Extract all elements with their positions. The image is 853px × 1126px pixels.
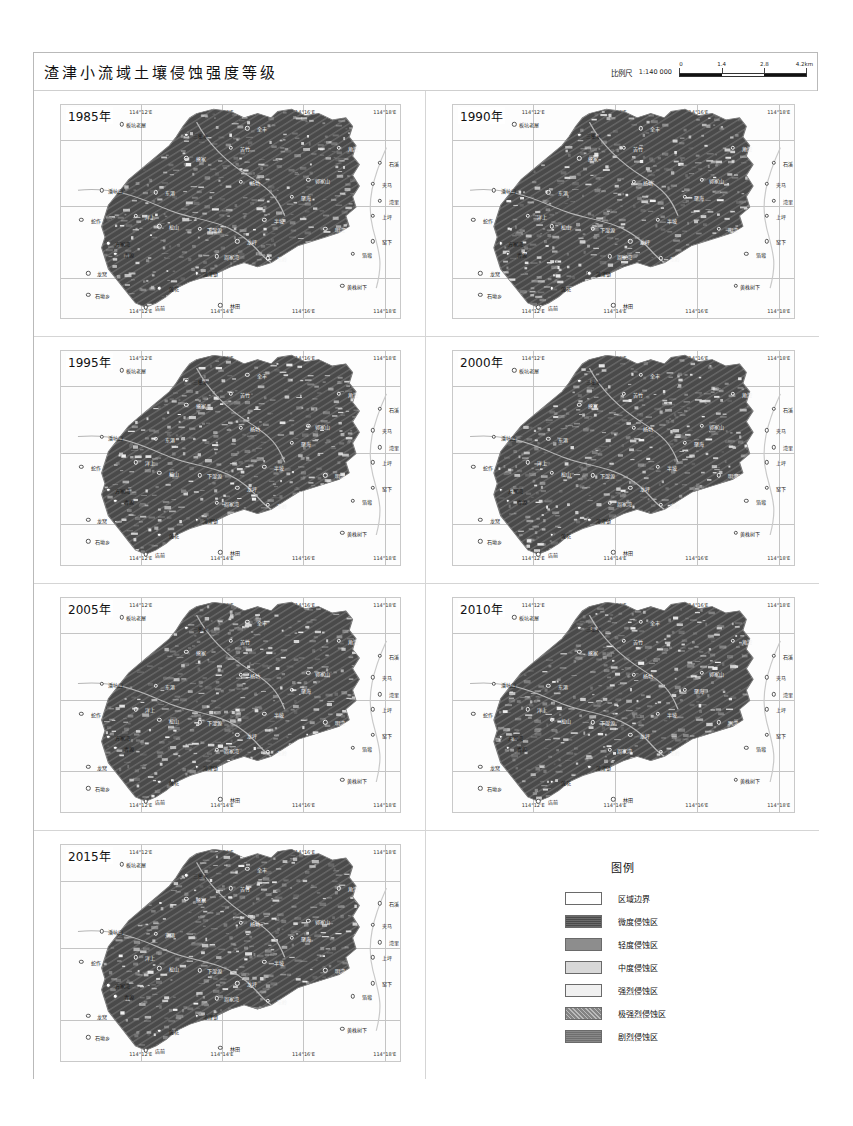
place-label: 石溪	[389, 652, 399, 659]
place-label: 板坑老屋	[519, 121, 539, 128]
legend-label: 轻度侵蚀区	[618, 939, 658, 950]
place-label: 方家湾	[508, 487, 523, 494]
place-label: 全丰	[257, 618, 267, 625]
place-label: 湾里	[783, 444, 793, 451]
map-plot[interactable]: 114°12'E114°12'E114°14'E114°14'E114°16'E…	[60, 597, 401, 813]
place-label: 角湾	[348, 390, 358, 397]
place-label: 林田	[230, 549, 240, 556]
legend-item[interactable]: 强烈侵蚀区	[565, 979, 666, 1002]
map-panel-2000[interactable]: 2000年 114°12'E114°12'E114°14'E114°14'E11…	[426, 337, 819, 584]
place-label: 龙坪	[247, 980, 257, 987]
scale-tick-3	[806, 68, 807, 73]
place-label: 湾里	[783, 691, 793, 698]
place-label: 蛇作	[483, 463, 493, 470]
place-label: 龙坪	[247, 484, 257, 491]
place-label: 夹马	[382, 921, 392, 928]
place-label: 熊家	[588, 155, 598, 162]
panel-year-label: 1990年	[458, 107, 505, 124]
scale-tick-label-3: 4.2km	[796, 61, 813, 67]
legend-item[interactable]: 微度侵蚀区	[565, 910, 666, 933]
place-label: 东岭	[277, 255, 287, 262]
place-label: 青源	[124, 993, 134, 1000]
place-label: 窑下	[382, 731, 392, 738]
place-label: 明湾	[335, 225, 345, 232]
place-label: 石溪	[783, 405, 793, 412]
legend-item[interactable]: 中度侵蚀区	[565, 956, 666, 979]
map-plot[interactable]: 114°12'E114°12'E114°14'E114°14'E114°16'E…	[452, 597, 795, 813]
map-plot[interactable]: 114°12'E114°12'E114°14'E114°14'E114°16'E…	[60, 104, 401, 319]
place-label: 角湾	[348, 144, 358, 151]
map-panel-2010[interactable]: 2010年 114°12'E114°12'E114°14'E114°14'E11…	[426, 584, 819, 831]
scale-bar-group: 比例尺 1:140 000 0 1.4 2.8 4.2km	[611, 61, 807, 83]
place-label: 半坡	[667, 217, 677, 224]
place-label: 林田	[230, 302, 240, 309]
place-label: 苦竹	[633, 390, 643, 397]
place-label: 松山	[561, 469, 571, 476]
place-label: 夹马	[382, 674, 392, 681]
map-panel-1995[interactable]: 1995年 114°12'E114°12'E114°14'E114°14'E11…	[34, 337, 426, 584]
place-label: 松山	[561, 716, 571, 723]
place-label: 夹马	[776, 427, 786, 434]
place-label: 松山	[169, 965, 179, 972]
place-label: 聚海	[301, 934, 311, 941]
map-panel-1985[interactable]: 1985年 114°12'E114°12'E114°14'E114°14'E11…	[34, 91, 426, 337]
place-label: 蛇作	[91, 710, 101, 717]
place-label: 箔塅	[756, 497, 766, 504]
place-label: 方家湾	[115, 982, 130, 989]
place-label: 黄株树下	[347, 529, 367, 536]
place-label: 聚海	[301, 193, 311, 200]
place-label: 店前	[548, 304, 558, 311]
place-label: 石溪	[389, 159, 399, 166]
place-label: 三集水	[586, 131, 601, 138]
place-label: 石坳乡	[95, 1034, 110, 1041]
place-label: 龙坪	[640, 484, 650, 491]
place-label: 渣津镇	[203, 1012, 218, 1019]
place-label: 洋上	[145, 954, 155, 961]
legend-item[interactable]: 极强烈侵蚀区	[565, 1002, 666, 1025]
place-label: 龙窝	[97, 270, 107, 277]
panel-year-label: 1995年	[66, 353, 113, 370]
place-label: 潘坑口	[108, 187, 123, 194]
place-label: 夹马	[382, 180, 392, 187]
place-label: 周家湾	[224, 253, 239, 260]
legend-item[interactable]: 轻度侵蚀区	[565, 933, 666, 956]
place-label: 莲花	[561, 532, 571, 539]
place-label: 东港	[165, 682, 175, 689]
map-plot[interactable]: 114°12'E114°12'E114°14'E114°14'E114°16'E…	[452, 104, 795, 319]
map-panel-2015[interactable]: 2015年 114°12'E114°12'E114°14'E114°14'E11…	[34, 831, 426, 1079]
place-label: 蛇作	[91, 958, 101, 965]
place-label: 青源	[124, 497, 134, 504]
scale-bar: 0 1.4 2.8 4.2km	[679, 64, 807, 80]
map-panel-2005[interactable]: 2005年 114°12'E114°12'E114°14'E114°14'E11…	[34, 584, 426, 831]
place-label: 方家湾	[115, 487, 130, 494]
legend-item[interactable]: 区域边界	[565, 887, 666, 910]
scale-tick-2	[764, 68, 765, 73]
scale-tick-label-2: 2.8	[760, 61, 769, 67]
place-label: 苦竹	[240, 390, 250, 397]
place-label: 周家湾	[224, 995, 239, 1002]
place-label: 周家湾	[224, 746, 239, 753]
map-panel-1990[interactable]: 1990年 114°12'E114°12'E114°14'E114°14'E11…	[426, 91, 819, 337]
place-label: 杨坊	[250, 178, 260, 185]
place-label: 熊家	[588, 648, 598, 655]
place-label: 下湿源	[207, 967, 222, 974]
place-label: 石坳乡	[95, 538, 110, 545]
map-plot[interactable]: 114°12'E114°12'E114°14'E114°14'E114°16'E…	[452, 350, 795, 566]
place-label: 渣津镇	[596, 764, 611, 771]
place-label: 板坑老屋	[126, 861, 146, 868]
place-label: 全丰	[257, 125, 267, 132]
title-bar: 渣津小流域土壤侵蚀强度等级 比例尺 1:140 000 0 1.4	[34, 53, 817, 91]
map-plot[interactable]: 114°12'E114°12'E114°14'E114°14'E114°16'E…	[60, 844, 401, 1062]
place-label: 窑下	[382, 484, 392, 491]
place-label: 上坪	[382, 459, 392, 466]
place-label: 杨坊	[643, 425, 653, 432]
map-plot[interactable]: 114°12'E114°12'E114°14'E114°14'E114°16'E…	[60, 350, 401, 566]
place-label: 板坑老屋	[519, 614, 539, 621]
legend-swatch	[565, 984, 602, 997]
place-label: 窑下	[776, 484, 786, 491]
place-label: 洋上	[145, 459, 155, 466]
place-label: 全丰	[257, 371, 267, 378]
legend-item[interactable]: 剧烈侵蚀区	[565, 1025, 666, 1048]
place-label: 下湿源	[600, 472, 615, 479]
place-label: 熊家	[196, 155, 206, 162]
